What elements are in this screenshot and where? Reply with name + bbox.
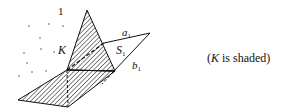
caption: (K is shaded) [207, 51, 270, 66]
caption-K: K [211, 51, 219, 65]
shaded-triangle [67, 10, 115, 71]
label-S1-sub: 1 [122, 50, 126, 58]
label-a1: a1 [122, 27, 131, 40]
label-b1-sub: 1 [138, 65, 142, 73]
label-S1: S1 [116, 44, 126, 58]
label-K: K [58, 44, 66, 56]
label-b1: b1 [132, 60, 141, 73]
label-a1-sub: 1 [128, 32, 132, 40]
scattered-dots [18, 23, 64, 77]
caption-rest: is shaded) [219, 51, 270, 65]
shaded-parallelogram [18, 70, 115, 107]
label-one: 1 [58, 6, 64, 17]
